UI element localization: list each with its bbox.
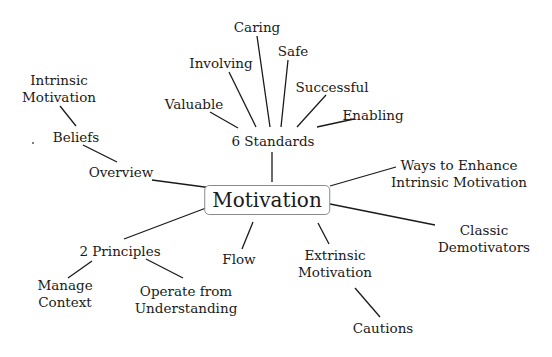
node-valuable[interactable]: Valuable xyxy=(165,96,224,113)
connector-line xyxy=(242,222,253,249)
node-label: Ways to Enhance xyxy=(391,157,527,174)
node-classic-demotivators[interactable]: ClassicDemotivators xyxy=(438,222,530,256)
node-label: Manage xyxy=(37,277,92,294)
node-label: Extrinsic xyxy=(298,247,372,264)
connector-line xyxy=(330,204,435,225)
node-motivation[interactable]: Motivation xyxy=(204,185,330,215)
node-label: Overview xyxy=(89,164,154,181)
node-overview[interactable]: Overview xyxy=(89,164,154,181)
node-label: Motivation xyxy=(212,188,322,212)
node-two-principles[interactable]: 2 Principles xyxy=(79,243,160,260)
node-ways-to-enhance[interactable]: Ways to EnhanceIntrinsic Motivation xyxy=(391,157,527,191)
connector-line xyxy=(330,167,396,186)
node-caring[interactable]: Caring xyxy=(234,19,281,36)
node-extrinsic-motivation[interactable]: ExtrinsicMotivation xyxy=(298,247,372,281)
connector-line xyxy=(229,72,256,127)
connector-line xyxy=(152,180,212,188)
node-label: Operate from xyxy=(135,283,238,300)
connector-line xyxy=(146,259,183,278)
node-successful[interactable]: Successful xyxy=(296,79,369,96)
node-safe[interactable]: Safe xyxy=(278,43,308,60)
mindmap-canvas: Motivation 6 StandardsValuableInvolvingC… xyxy=(0,0,552,357)
node-operate-from-understanding[interactable]: Operate fromUnderstanding xyxy=(135,283,238,317)
node-label: Enabling xyxy=(342,107,403,124)
connector-line xyxy=(210,112,238,128)
node-label: 6 Standards xyxy=(231,133,314,150)
node-label: Demotivators xyxy=(438,239,530,256)
node-enabling[interactable]: Enabling xyxy=(342,107,403,124)
node-label: Cautions xyxy=(353,320,414,337)
connector-line xyxy=(355,288,380,317)
node-label: Intrinsic xyxy=(22,72,96,89)
node-label: Involving xyxy=(189,55,252,72)
connector-line xyxy=(83,145,117,162)
node-label: Context xyxy=(37,294,92,311)
node-label: Successful xyxy=(296,79,369,96)
node-label: Understanding xyxy=(135,300,238,317)
node-label: Flow xyxy=(222,251,255,268)
node-label: Beliefs xyxy=(53,129,99,146)
node-label: Intrinsic Motivation xyxy=(391,174,527,191)
connector-line xyxy=(257,36,270,127)
connector-line xyxy=(60,106,76,126)
node-manage-context[interactable]: ManageContext xyxy=(37,277,92,311)
connector-line xyxy=(124,208,206,239)
node-six-standards[interactable]: 6 Standards xyxy=(231,133,314,150)
node-label: Caring xyxy=(234,19,281,36)
node-cautions[interactable]: Cautions xyxy=(353,320,414,337)
node-label: 2 Principles xyxy=(79,243,160,260)
node-involving[interactable]: Involving xyxy=(189,55,252,72)
connector-line xyxy=(318,223,329,244)
node-flow[interactable]: Flow xyxy=(222,251,255,268)
stray-dot xyxy=(32,142,34,144)
node-intrinsic-motivation[interactable]: IntrinsicMotivation xyxy=(22,72,96,106)
connector-line xyxy=(297,95,326,127)
node-label: Classic xyxy=(438,222,530,239)
node-label: Valuable xyxy=(165,96,224,113)
node-label: Motivation xyxy=(298,264,372,281)
node-label: Safe xyxy=(278,43,308,60)
node-label: Motivation xyxy=(22,89,96,106)
connector-line xyxy=(281,60,288,127)
connector-line xyxy=(68,261,92,278)
node-beliefs[interactable]: Beliefs xyxy=(53,129,99,146)
